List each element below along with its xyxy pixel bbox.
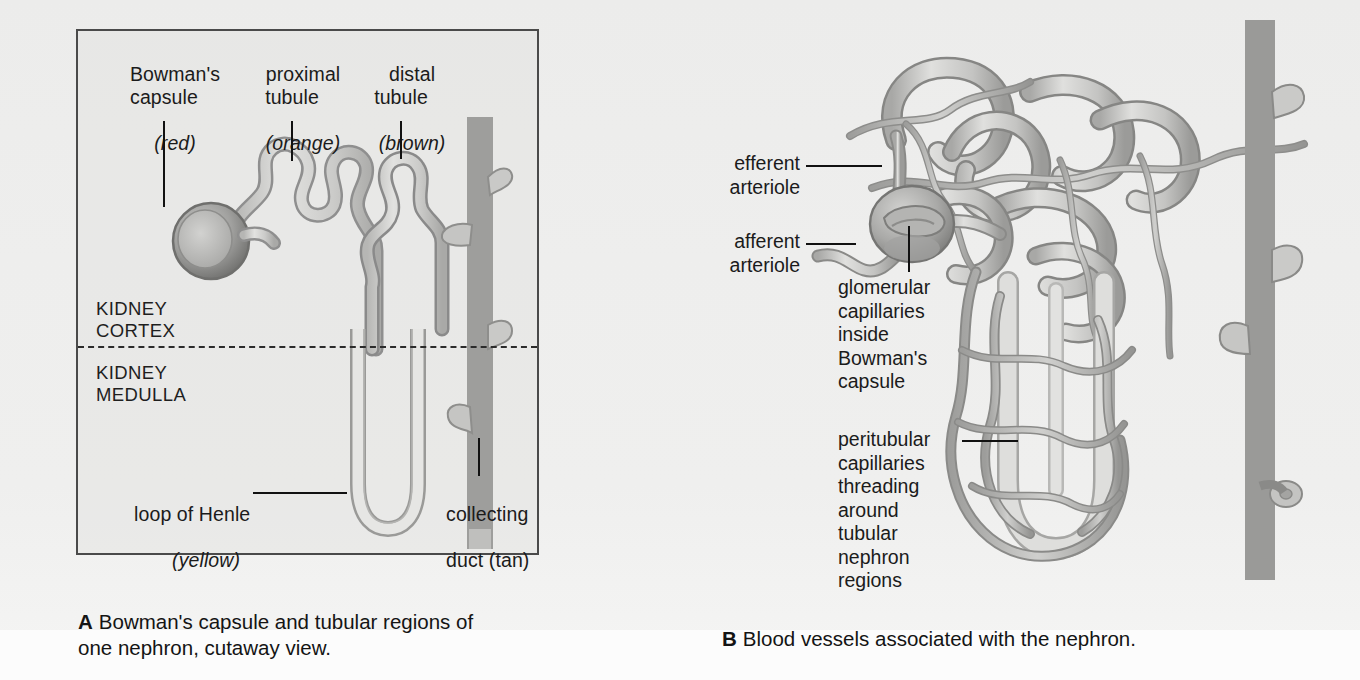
label-proximal-tubule-color: (orange) [266, 132, 341, 154]
caption-b-text: Blood vessels associated with the nephro… [743, 627, 1136, 650]
label-afferent-arteriole: afferent arteriole [690, 230, 800, 277]
vessel-diagram-svg [700, 20, 1340, 600]
leader-efferent-arteriole [806, 165, 882, 167]
leader-glomerular-capillaries [908, 226, 910, 272]
label-collecting-duct-color: duct (tan) [446, 549, 529, 571]
label-collecting-duct: collecting duct (tan) [424, 480, 529, 595]
caption-a-letter: A [78, 610, 93, 633]
label-kidney-cortex: KIDNEYCORTEX [96, 298, 175, 342]
caption-panel-a: ABowman's capsule and tubular regions of… [78, 583, 538, 661]
leader-bowmans-capsule [163, 121, 165, 207]
leader-peritubular-capillaries [962, 440, 1018, 442]
label-loop-of-henle: loop of Henle (yellow) [112, 480, 250, 595]
caption-b-letter: B [722, 627, 737, 650]
label-kidney-medulla: KIDNEYMEDULLA [96, 362, 186, 406]
label-distal-tubule-color: (brown) [379, 132, 446, 154]
caption-panel-b: BBlood vessels associated with the nephr… [722, 600, 1242, 652]
label-bowmans-capsule-text: Bowman's capsule [130, 63, 220, 108]
label-distal-tubule-text: distal tubule [374, 63, 435, 108]
cortex-medulla-divider [78, 346, 537, 348]
panel-b-artwork [700, 20, 1340, 600]
caption-a-text: Bowman's capsule and tubular regions of … [78, 610, 473, 659]
label-efferent-arteriole: efferent arteriole [690, 152, 800, 199]
label-bowmans-capsule-color: (red) [154, 132, 196, 154]
label-loop-of-henle-color: (yellow) [172, 549, 240, 571]
leader-proximal-tubule [291, 121, 293, 161]
label-proximal-tubule-text: proximal tubule [265, 63, 340, 108]
label-collecting-duct-text: collecting [446, 503, 528, 525]
leader-afferent-arteriole [806, 243, 856, 245]
label-loop-of-henle-text: loop of Henle [134, 503, 250, 525]
label-peritubular-capillaries: peritubular capillaries threading around… [838, 428, 1008, 593]
leader-distal-tubule [400, 121, 402, 159]
leader-loop-of-henle [253, 492, 347, 494]
label-glomerular-capillaries: glomerular capillaries inside Bowman's c… [838, 276, 998, 394]
figure-root: Bowman's capsule (red) proximal tubule (… [0, 0, 1360, 680]
leader-collecting-duct [478, 438, 480, 476]
